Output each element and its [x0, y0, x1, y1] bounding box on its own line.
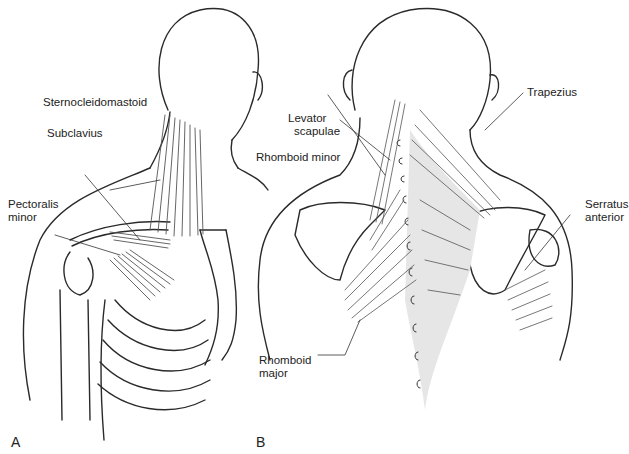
label-serratus-anterior-line2: anterior: [585, 211, 624, 224]
label-levator-scapulae-line2: scapulae: [294, 125, 340, 138]
label-rhomboid-minor: Rhomboid minor: [256, 151, 340, 164]
label-serratus-anterior-line1: Serratus: [585, 198, 628, 211]
label-trapezius: Trapezius: [527, 86, 577, 99]
panel-label-a: A: [11, 434, 20, 450]
label-sternocleidomastoid: Sternocleidomastoid: [43, 96, 147, 109]
label-rhomboid-major-line2: major: [259, 367, 288, 380]
head-outline: [159, 9, 259, 140]
label-levator-scapulae-line1: Levator: [288, 112, 326, 125]
label-rhomboid-major-line1: Rhomboid: [259, 354, 311, 367]
label-subclavius: Subclavius: [47, 127, 103, 140]
anterior-muscles: [110, 115, 203, 300]
label-pectoralis-minor-line2: minor: [8, 211, 37, 224]
anatomy-illustration: [0, 0, 629, 454]
anterior-figure: [23, 9, 268, 440]
panel-label-b: B: [256, 434, 265, 450]
label-pectoralis-minor-line1: Pectoralis: [8, 198, 59, 211]
